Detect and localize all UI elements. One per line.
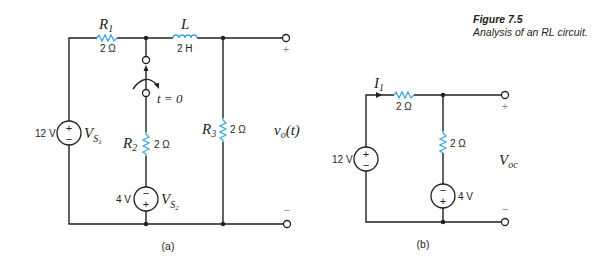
source-12v-value: 12 V bbox=[332, 154, 353, 165]
node-dot-icon bbox=[441, 220, 445, 224]
r1-symbol: R bbox=[98, 16, 108, 32]
vs2-value: 4 V bbox=[116, 194, 131, 205]
voltage-source-vs2: − + 4 V VS2 bbox=[116, 187, 179, 212]
voltage-source-4v: − + 4 V bbox=[431, 184, 473, 208]
switch-arrowhead-icon bbox=[144, 65, 149, 71]
source-4v-plus-sign: + bbox=[440, 195, 446, 207]
source-4v-value: 4 V bbox=[458, 191, 473, 202]
circuit-a-wires bbox=[69, 38, 283, 224]
svg-text:R3: R3 bbox=[201, 121, 216, 139]
svg-text:VS2: VS2 bbox=[161, 191, 179, 212]
output-terminal-plus-icon bbox=[283, 35, 290, 42]
switch: t = 0 bbox=[133, 57, 183, 107]
output-minus-sign: − bbox=[502, 203, 508, 215]
inductor-symbol: L bbox=[180, 16, 189, 32]
node-dot-icon bbox=[221, 36, 225, 40]
source-12v-minus-sign: − bbox=[363, 159, 369, 171]
inductor-value: 2 H bbox=[177, 43, 193, 54]
switch-contact-top-icon bbox=[143, 57, 150, 64]
output-voltage-arg: (t) bbox=[286, 122, 300, 139]
resistor-shunt-zigzag-icon bbox=[440, 131, 446, 153]
node-dot-icon bbox=[441, 93, 445, 97]
svg-text:R2: R2 bbox=[122, 135, 137, 153]
voc-subscript: oc bbox=[508, 159, 518, 170]
output-terminal-plus-icon bbox=[502, 92, 509, 99]
inductor-coil-icon bbox=[173, 35, 197, 38]
svg-text:VS1: VS1 bbox=[84, 125, 102, 146]
resistor-series-value: 2 Ω bbox=[396, 101, 412, 112]
switch-rotation-arc-icon bbox=[133, 79, 157, 89]
circuit-b-output: + − Voc bbox=[499, 92, 518, 226]
inductor-l: L 2 H bbox=[173, 16, 197, 54]
caption-title: Figure 7.5 bbox=[473, 13, 523, 25]
vs2-plus-sign: + bbox=[143, 198, 149, 210]
svg-text:R1: R1 bbox=[98, 16, 113, 34]
resistor-series: 2 Ω bbox=[394, 92, 414, 112]
figure-caption: Figure 7.5 Analysis of an RL circuit. bbox=[472, 13, 588, 38]
vs1-subsubscript: 1 bbox=[98, 138, 102, 146]
resistor-r1: R1 2 Ω bbox=[97, 16, 117, 54]
node-dot-icon bbox=[144, 222, 148, 226]
svg-text:I1: I1 bbox=[373, 75, 384, 93]
circuit-a-label: (a) bbox=[162, 240, 175, 252]
r2-value: 2 Ω bbox=[154, 139, 170, 150]
svg-text:vo(t): vo(t) bbox=[274, 122, 300, 140]
resistor-shunt: 2 Ω bbox=[440, 131, 466, 153]
output-plus-sign: + bbox=[283, 43, 289, 55]
r1-subscript: 1 bbox=[108, 23, 113, 34]
resistor-r1-zigzag-icon bbox=[97, 35, 117, 41]
r2-subscript: 2 bbox=[132, 142, 137, 153]
circuit-a-output: + − vo(t) bbox=[274, 35, 300, 228]
resistor-r2-zigzag-icon bbox=[143, 132, 149, 156]
r3-value: 2 Ω bbox=[230, 124, 246, 135]
circuit-b: I1 2 Ω 2 Ω + − 12 V − + 4 V bbox=[332, 75, 518, 250]
resistor-r3: R3 2 Ω bbox=[201, 118, 246, 142]
output-minus-sign: − bbox=[284, 204, 290, 216]
current-subscript: 1 bbox=[379, 82, 384, 93]
resistor-series-zigzag-icon bbox=[394, 92, 414, 98]
r3-subscript: 3 bbox=[210, 128, 216, 139]
caption-text: Analysis of an RL circuit. bbox=[472, 26, 588, 38]
r3-symbol: R bbox=[201, 121, 211, 137]
resistor-shunt-value: 2 Ω bbox=[450, 138, 466, 149]
switch-contact-bottom-icon bbox=[143, 90, 150, 97]
circuit-b-label: (b) bbox=[417, 238, 430, 250]
output-terminal-minus-icon bbox=[284, 221, 291, 228]
output-terminal-minus-icon bbox=[502, 219, 509, 226]
svg-text:Voc: Voc bbox=[499, 152, 518, 170]
resistor-r2: R2 2 Ω bbox=[122, 132, 170, 156]
resistor-r3-zigzag-icon bbox=[220, 118, 226, 142]
figure-canvas: Figure 7.5 Analysis of an RL circuit. R1… bbox=[0, 0, 614, 267]
voltage-source-12v: + − 12 V bbox=[332, 147, 378, 171]
node-dot-icon bbox=[144, 36, 148, 40]
voltage-source-vs1: + − 12 V VS1 bbox=[35, 121, 102, 146]
switch-time-label: t = 0 bbox=[157, 91, 183, 106]
r2-symbol: R bbox=[122, 135, 132, 151]
output-plus-sign: + bbox=[502, 100, 508, 112]
r1-value: 2 Ω bbox=[100, 43, 116, 54]
vs1-value: 12 V bbox=[35, 128, 56, 139]
vs1-minus-sign: − bbox=[66, 133, 72, 145]
node-dot-icon bbox=[221, 222, 225, 226]
vs2-subsubscript: 2 bbox=[175, 204, 179, 212]
circuit-a: R1 2 Ω L 2 H t = 0 R2 2 Ω R3 bbox=[35, 16, 300, 252]
switch-rotation-arrow-icon bbox=[154, 83, 159, 89]
